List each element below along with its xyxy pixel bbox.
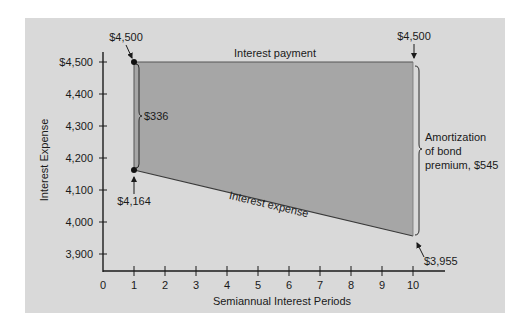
y-axis-title: Interest Expense — [38, 119, 50, 202]
start-payment-value-label: $4,500 — [109, 31, 143, 43]
x-tick-label: 0 — [100, 279, 106, 291]
x-tick-label: 5 — [255, 279, 261, 291]
interest-chart: $4,500 4,400 4,300 4,200 4,100 4,000 3,9… — [0, 0, 532, 333]
x-tick-label: 7 — [317, 279, 323, 291]
x-tick-label: 4 — [224, 279, 230, 291]
x-tick-label: 6 — [286, 279, 292, 291]
x-tick-label: 8 — [348, 279, 354, 291]
x-tick-label: 3 — [193, 279, 199, 291]
end-payment-value-label: $4,500 — [397, 30, 431, 42]
y-tick-label: 4,200 — [65, 152, 93, 164]
amortization-label-line1: Amortization — [425, 131, 486, 143]
y-tick-label: 4,000 — [65, 216, 93, 228]
y-tick-label: 4,400 — [65, 88, 93, 100]
x-axis-title: Semiannual Interest Periods — [213, 295, 352, 307]
y-tick-label: $4,500 — [59, 56, 93, 68]
y-tick-label: 3,900 — [65, 248, 93, 260]
end-expense-value-label: $3,955 — [424, 255, 458, 267]
start-difference-label: $336 — [144, 110, 168, 122]
y-tick-label: 4,100 — [65, 184, 93, 196]
x-tick-label: 10 — [407, 279, 419, 291]
interest-payment-label: Interest payment — [234, 47, 316, 59]
start-expense-value-label: $4,164 — [117, 195, 151, 207]
y-tick-label: 4,300 — [65, 120, 93, 132]
amortization-label-line3: premium, $545 — [425, 159, 498, 171]
x-tick-label: 1 — [131, 279, 137, 291]
x-tick-label: 9 — [379, 279, 385, 291]
x-tick-label: 2 — [162, 279, 168, 291]
amortization-label-line2: of bond — [425, 145, 462, 157]
